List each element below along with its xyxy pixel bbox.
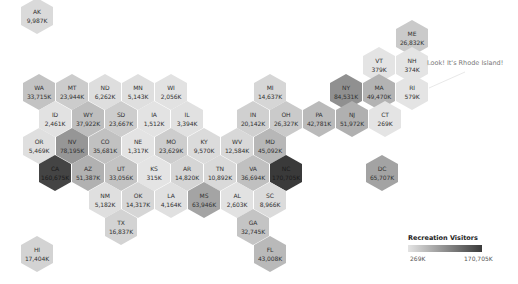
legend-gradient-bar (408, 245, 482, 252)
state-abbr: CO (101, 137, 110, 146)
state-value: 2,603K (227, 200, 248, 209)
state-abbr: AR (183, 164, 191, 173)
state-value: 45,092K (258, 146, 282, 155)
state-value: 16,837K (109, 227, 133, 236)
state-value: 42,781K (307, 119, 331, 128)
state-hex-ak[interactable]: AK9,987K (21, 0, 53, 34)
state-value: 9,987K (27, 16, 48, 25)
state-value: 10,892K (208, 173, 232, 182)
state-abbr: AK (33, 7, 41, 16)
state-value: 5,143K (128, 92, 149, 101)
state-value: 4,164K (161, 200, 182, 209)
state-abbr: PA (315, 110, 322, 119)
state-abbr: ID (52, 110, 58, 119)
state-value: 23,667K (109, 119, 133, 128)
state-value: 374K (405, 65, 420, 74)
state-value: 32,745K (241, 227, 265, 236)
state-abbr: ME (408, 29, 417, 38)
state-abbr: OK (134, 191, 142, 200)
state-value: 23,629K (159, 146, 183, 155)
state-value: 84,531K (334, 92, 358, 101)
state-value: 269K (378, 119, 393, 128)
state-hex-pa[interactable]: PA42,781K (303, 101, 335, 137)
state-value: 12,584K (225, 146, 249, 155)
state-value: 63,946K (192, 200, 216, 209)
state-value: 26,327K (274, 119, 298, 128)
state-abbr: DC (378, 164, 387, 173)
state-abbr: AZ (84, 164, 92, 173)
state-abbr: FL (267, 245, 274, 254)
state-value: 9,570K (194, 146, 215, 155)
state-abbr: OR (35, 137, 44, 146)
state-value: 5,469K (29, 146, 50, 155)
state-value: 170,705K (272, 173, 300, 182)
state-value: 14,637K (258, 92, 282, 101)
state-value: 36,694K (241, 173, 265, 182)
state-hex-dc[interactable]: DC65,707K (366, 155, 398, 191)
state-value: 33,056K (109, 173, 133, 182)
state-value: 1,317K (128, 146, 149, 155)
state-abbr: MN (133, 83, 142, 92)
state-abbr: SC (266, 191, 274, 200)
state-abbr: TX (117, 218, 125, 227)
state-value: 1,512K (144, 119, 165, 128)
state-value: 35,681K (93, 146, 117, 155)
state-abbr: NH (408, 56, 417, 65)
state-value: 51,972K (340, 119, 364, 128)
state-value: 37,922K (76, 119, 100, 128)
state-value: 17,404K (25, 254, 49, 263)
legend-title: Recreation Visitors (408, 234, 498, 242)
state-value: 23,944K (60, 92, 84, 101)
state-abbr: WI (167, 83, 175, 92)
state-abbr: NJ (349, 110, 355, 119)
state-abbr: WA (34, 83, 44, 92)
state-abbr: NM (100, 191, 109, 200)
state-abbr: OH (281, 110, 290, 119)
state-hex-hi[interactable]: HI17,404K (21, 236, 53, 272)
state-abbr: VT (375, 56, 383, 65)
state-abbr: SD (117, 110, 125, 119)
state-abbr: WY (83, 110, 92, 119)
state-value: 3,394K (177, 119, 198, 128)
state-abbr: KS (150, 164, 158, 173)
state-abbr: VA (249, 164, 257, 173)
state-value: 315K (147, 173, 162, 182)
state-abbr: KY (200, 137, 207, 146)
state-value: 2,056K (161, 92, 182, 101)
state-abbr: CT (381, 110, 389, 119)
state-abbr: CA (51, 164, 59, 173)
legend-max-label: 170,705K (464, 255, 493, 262)
state-abbr: IA (151, 110, 157, 119)
state-abbr: NE (134, 137, 142, 146)
state-abbr: HI (34, 245, 40, 254)
state-abbr: MT (68, 83, 77, 92)
state-value: 379K (372, 65, 387, 74)
state-abbr: ND (101, 83, 110, 92)
state-value: 65,707K (370, 173, 394, 182)
state-value: 2,461K (45, 119, 66, 128)
state-abbr: MI (267, 83, 274, 92)
state-abbr: LA (167, 191, 174, 200)
state-value: 14,820K (175, 173, 199, 182)
state-abbr: MD (265, 137, 275, 146)
state-abbr: NY (342, 83, 350, 92)
state-value: 26,832K (400, 38, 424, 47)
state-value: 14,317K (126, 200, 150, 209)
state-abbr: WV (232, 137, 242, 146)
state-value: 20,142K (241, 119, 265, 128)
state-value: 51,387K (76, 173, 100, 182)
state-abbr: RI (409, 83, 415, 92)
state-abbr: NC (282, 164, 290, 173)
state-abbr: GA (249, 218, 258, 227)
rhode-island-annotation: Look! It's Rhode Island! (427, 59, 503, 67)
state-abbr: UT (117, 164, 125, 173)
state-value: 78,195K (60, 146, 84, 155)
state-hex-ri[interactable]: RI579K (396, 74, 428, 110)
state-value: 5,182K (95, 200, 116, 209)
state-value: 8,966K (260, 200, 281, 209)
state-abbr: MO (166, 137, 176, 146)
state-value: 33,715K (27, 92, 51, 101)
state-value: 579K (405, 92, 420, 101)
state-abbr: IL (185, 110, 190, 119)
state-abbr: MA (374, 83, 383, 92)
